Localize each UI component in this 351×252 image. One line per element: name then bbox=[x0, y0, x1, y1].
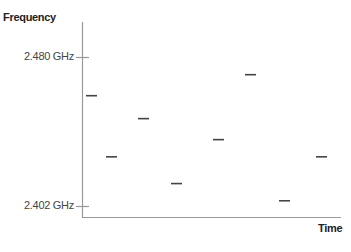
frequency-hopping-chart: Frequency Time 2.480 GHz 2.402 GHz bbox=[0, 0, 351, 252]
plot-area bbox=[0, 0, 351, 252]
data-markers bbox=[86, 75, 327, 201]
